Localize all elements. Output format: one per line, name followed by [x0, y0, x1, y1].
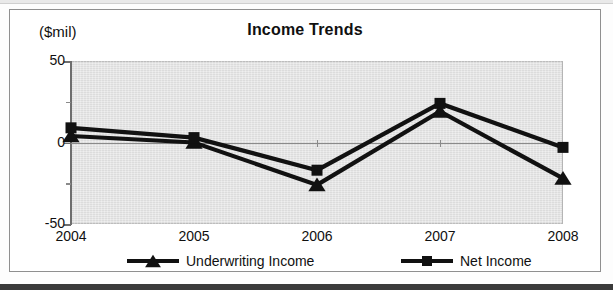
scanned-page: Income Trends ($mil) 500-50 200420052006… [0, 0, 613, 290]
data-point-marker [558, 142, 569, 153]
legend-item-underwriting-income[interactable]: Underwriting Income [127, 253, 314, 269]
data-point-marker [66, 122, 77, 133]
income-trends-chart: Income Trends ($mil) 500-50 200420052006… [9, 9, 601, 272]
y-axis-unit-label: ($mil) [39, 23, 77, 40]
y-axis-labels: 500-50 [21, 61, 65, 224]
x-axis-tick-label: 2006 [301, 228, 332, 244]
y-axis-tick-label: 0 [29, 134, 65, 150]
legend-item-net-income[interactable]: Net Income [401, 253, 532, 269]
scan-bottom-band [0, 284, 613, 290]
x-axis-tick-label: 2005 [178, 228, 209, 244]
legend-label: Underwriting Income [186, 253, 314, 269]
legend-label: Net Income [460, 253, 532, 269]
x-axis-tick-label: 2008 [547, 228, 578, 244]
y-axis-tick [64, 143, 71, 145]
x-axis-tick-label: 2004 [55, 228, 86, 244]
data-point-marker [189, 132, 200, 143]
x-axis-tick-label: 2007 [424, 228, 455, 244]
y-axis-tick [64, 224, 71, 226]
triangle-marker [127, 253, 179, 269]
series-triangle [62, 104, 571, 191]
scan-top-edge [0, 0, 613, 4]
y-axis-tick [64, 61, 71, 63]
series-square [66, 98, 569, 176]
series-plot [71, 61, 563, 224]
data-point-marker [435, 98, 446, 109]
x-axis-labels: 20042005200620072008 [71, 228, 563, 250]
square-marker [401, 253, 453, 269]
data-point-marker [312, 165, 323, 176]
chart-legend: Underwriting IncomeNet Income [9, 253, 601, 275]
chart-title: Income Trends [9, 21, 601, 39]
y-axis-tick-label: 50 [29, 52, 65, 68]
